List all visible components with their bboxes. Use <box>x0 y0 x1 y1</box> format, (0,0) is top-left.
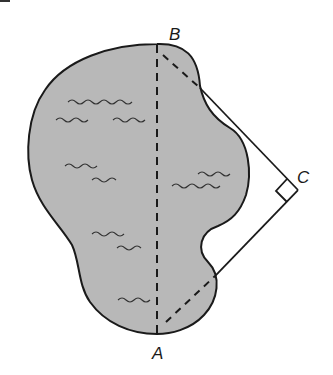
lake-shape <box>28 44 249 334</box>
label-a: A <box>151 344 163 363</box>
lake-diagram: B C A <box>0 0 333 375</box>
right-angle-mark <box>276 179 287 202</box>
label-c: C <box>297 168 310 187</box>
label-b: B <box>169 25 180 44</box>
